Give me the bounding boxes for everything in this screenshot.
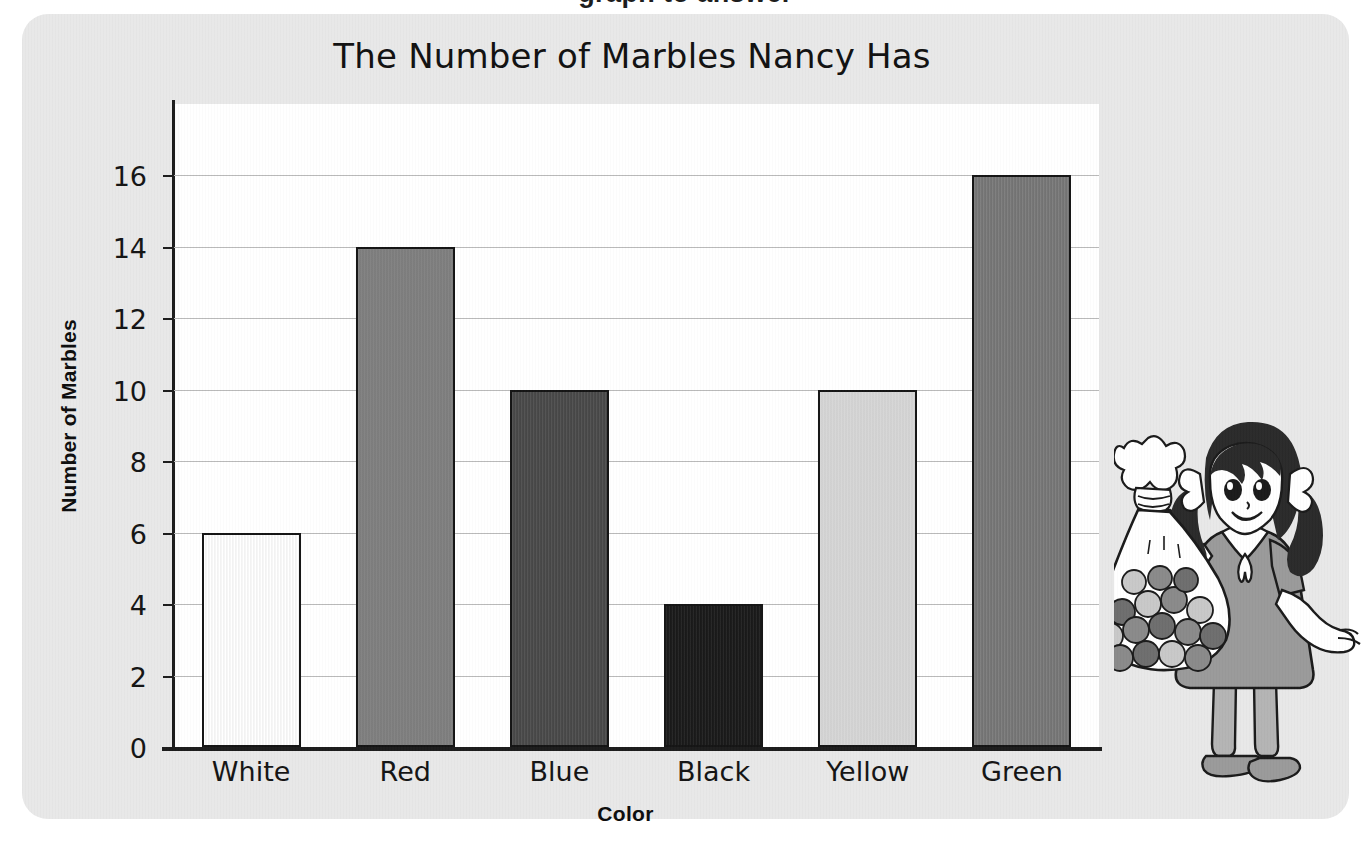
bar-texture: [512, 392, 607, 745]
category-label-red: Red: [380, 756, 431, 787]
y-axis-tick: 0: [163, 747, 174, 749]
bar-yellow: [818, 390, 917, 747]
y-axis-tick: 4: [163, 604, 174, 606]
gridline: [174, 175, 1099, 176]
gridline: [174, 318, 1099, 319]
y-axis-tick: 10: [163, 390, 174, 392]
gridline: [174, 533, 1099, 534]
y-axis-tick-label: 2: [130, 661, 147, 692]
bar-blue: [510, 390, 609, 747]
chart-title: The Number of Marbles Nancy Has: [152, 36, 1112, 76]
y-axis-tick: 12: [163, 318, 174, 320]
category-label-white: White: [212, 756, 291, 787]
girl-holding-marbles-illustration: [1114, 414, 1371, 804]
gridline: [174, 390, 1099, 391]
bar-texture: [666, 606, 761, 745]
bar-white: [202, 533, 301, 747]
y-axis-tick: 2: [163, 676, 174, 678]
category-label-green: Green: [981, 756, 1063, 787]
category-label-blue: Blue: [530, 756, 590, 787]
y-axis-tick: 8: [163, 461, 174, 463]
y-axis-tick-label: 12: [113, 304, 147, 335]
category-label-black: Black: [677, 756, 750, 787]
category-label-yellow: Yellow: [826, 756, 909, 787]
bar-texture: [204, 535, 299, 745]
cut-off-heading-fragment: graph to answer: [0, 0, 1371, 8]
y-axis-tick-label: 4: [130, 590, 147, 621]
gridline: [174, 461, 1099, 462]
y-axis-tick-label: 0: [130, 733, 147, 764]
x-axis-line: [162, 747, 1102, 751]
y-axis-tick: 16: [163, 175, 174, 177]
y-axis-tick: 14: [163, 247, 174, 249]
y-axis-tick-label: 8: [130, 447, 147, 478]
y-axis-tick-label: 10: [113, 375, 147, 406]
gridline: [174, 676, 1099, 677]
x-axis-title: Color: [152, 802, 1099, 826]
bar-texture: [974, 177, 1069, 745]
bar-green: [972, 175, 1071, 747]
bar-black: [664, 604, 763, 747]
worksheet-card: The Number of Marbles Nancy Has Number o…: [22, 14, 1349, 819]
y-axis-tick: 6: [163, 533, 174, 535]
y-axis-tick-label: 14: [113, 232, 147, 263]
y-axis-tick-label: 6: [130, 518, 147, 549]
y-axis-line: [172, 100, 175, 751]
y-axis-tick-label: 16: [113, 161, 147, 192]
plot-area: 0246810121416 WhiteRedBlueBlackYellowGre…: [174, 104, 1099, 747]
bar-texture: [358, 249, 453, 745]
bar-red: [356, 247, 455, 747]
gridline: [174, 604, 1099, 605]
gridline: [174, 247, 1099, 248]
y-axis-title: Number of Marbles: [57, 306, 81, 526]
bar-texture: [820, 392, 915, 745]
